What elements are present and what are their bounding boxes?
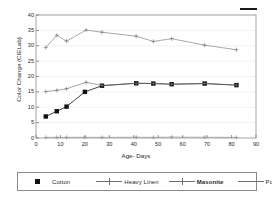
x-axis-label: Age- Days [0,152,272,159]
legend-label-heavy-linen: Heavy Linen [122,179,158,185]
x-tick-label: 70 [201,141,213,147]
x-tick-label: 40 [128,141,140,147]
x-tick-label: 90 [250,141,262,147]
x-tick-label: 30 [103,141,115,147]
legend-item-cotton: Cotton [24,173,70,190]
x-tick-label: 0 [30,141,42,147]
legend-item-heavy-linen: Heavy Linen [96,173,158,190]
y-tick-label: 40 [25,12,34,18]
chart-legend: Cotton Heavy Linen Masonite Polyester [17,172,257,191]
y-axis-label: Color Change (CIELab) [15,10,22,130]
x-tick-label: 80 [226,141,238,147]
x-tick-label: 50 [152,141,164,147]
y-tick-label: 0 [25,135,34,141]
legend-item-masonite: Masonite [169,173,224,190]
plot-area: Color Change (CIELab) Age- Days 05101520… [0,0,272,166]
plus-line-icon [169,177,195,186]
y-tick-label: 5 [25,119,34,125]
x-tick-label: 10 [54,141,66,147]
x-tick-label: 20 [79,141,91,147]
legend-label-polyester: Polyester [264,179,272,185]
y-tick-label: 15 [25,88,34,94]
y-tick-label: 30 [25,42,34,48]
y-tick-label: 25 [25,58,34,64]
x-tick-label: 60 [177,141,189,147]
chart-figure: Color Change (CIELab) Age- Days 05101520… [0,0,272,197]
line-icon [238,177,264,186]
y-tick-label: 10 [25,104,34,110]
legend-label-cotton: Cotton [50,179,70,185]
filled-square-icon [24,177,50,186]
legend-item-polyester: Polyester [238,173,272,190]
legend-label-masonite: Masonite [195,179,224,185]
y-tick-label: 35 [25,27,34,33]
y-tick-label: 20 [25,73,34,79]
plus-line-icon [96,177,122,186]
